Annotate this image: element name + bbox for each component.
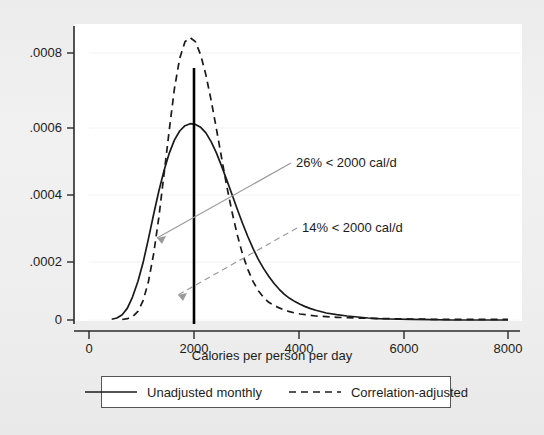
gridlines (89, 53, 520, 320)
ytick-label-0002: .0002 (10, 254, 62, 269)
legend-key-solid-line (84, 387, 138, 397)
ytick-label-0004: .0004 (10, 187, 62, 202)
x-axis-title: Calories per person per day (0, 348, 544, 363)
ytick-label-0006: .0006 (10, 120, 62, 135)
annotation-26-percent: 26% < 2000 cal/d (296, 155, 397, 170)
x-axis (74, 331, 520, 339)
ytick-label-0008: .0008 (10, 45, 62, 60)
leader-line-26pct (157, 163, 291, 244)
legend-label-unadjusted-monthly: Unadjusted monthly (147, 385, 262, 400)
density-plot (0, 0, 544, 435)
ytick-label-0: 0 (10, 312, 62, 327)
annotation-14-percent: 14% < 2000 cal/d (302, 220, 403, 235)
legend-key-dashed-line (288, 387, 342, 397)
y-axis (67, 26, 74, 324)
legend-entry-unadjusted-monthly: Unadjusted monthly (84, 385, 262, 400)
legend-label-correlation-adjusted: Correlation-adjusted (351, 385, 468, 400)
legend-entry-correlation-adjusted: Correlation-adjusted (288, 385, 468, 400)
curve-correlation-adjusted (122, 38, 508, 320)
chart-legend: Unadjusted monthly Correlation-adjusted (101, 376, 451, 408)
chart-figure: .0008 .0006 .0004 .0002 0 0 2000 4000 60… (0, 0, 544, 435)
